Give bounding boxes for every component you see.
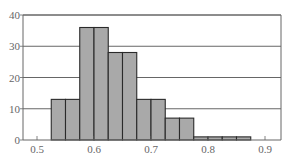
histogram-bar bbox=[94, 28, 108, 141]
x-tick-label: 0.9 bbox=[258, 143, 272, 155]
histogram-bars bbox=[51, 28, 251, 141]
y-tick-label: 40 bbox=[9, 9, 21, 21]
histogram-bar bbox=[80, 28, 94, 141]
grid-lines bbox=[23, 15, 281, 109]
y-tick-label: 10 bbox=[9, 103, 21, 115]
histogram-bar bbox=[51, 99, 65, 140]
x-tick-label: 0.8 bbox=[201, 143, 215, 155]
histogram-bar bbox=[123, 53, 137, 141]
histogram-bar bbox=[137, 99, 151, 140]
histogram-bar bbox=[66, 99, 80, 140]
y-tick-label: 30 bbox=[9, 40, 21, 52]
x-tick-label: 0.5 bbox=[30, 143, 44, 155]
x-tick-label: 0.7 bbox=[144, 143, 158, 155]
histogram-bar bbox=[151, 99, 165, 140]
y-tick-label: 20 bbox=[9, 72, 21, 84]
histogram-chart: 0.50.60.70.80.9 010203040 bbox=[0, 0, 291, 162]
histogram-bar bbox=[180, 118, 194, 140]
y-axis-ticks: 010203040 bbox=[9, 9, 23, 146]
histogram-bar bbox=[165, 118, 179, 140]
y-tick-label: 0 bbox=[15, 134, 21, 146]
histogram-bar bbox=[108, 53, 122, 141]
x-tick-label: 0.6 bbox=[87, 143, 101, 155]
